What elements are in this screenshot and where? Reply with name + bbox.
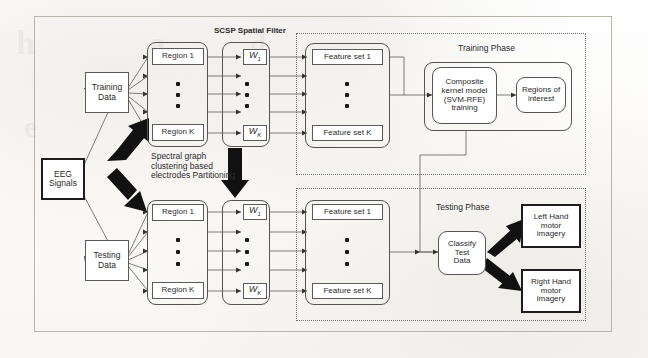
testing-region-first[interactable]: Region 1 [152,204,204,221]
testing-w-first-label: W [249,205,258,215]
partition-arrow-top [107,118,149,161]
ellipsis-dot [176,82,180,86]
training-feature-first[interactable]: Feature set 1 [312,49,383,65]
testing-w-last[interactable]: WK [243,283,267,299]
training-feature-last[interactable]: Feature set K [312,125,383,141]
testing-data-line2: Data [94,261,121,270]
training-w-first-label: W [249,50,258,60]
ellipsis-dot [345,250,349,254]
testing-feature-first[interactable]: Feature set 1 [312,204,383,220]
ellipsis-dot [245,82,249,86]
ellipsis-dot [345,262,349,266]
classify-test-data-box[interactable]: Classify Test Data [438,231,486,275]
scsp-filter-label: SCSP Spatial Filter [214,27,286,36]
classify-line3: Data [448,257,476,266]
right-hand-arrow [482,258,522,291]
training-w-last[interactable]: WK [243,125,267,141]
composite-kernel-line4: training [442,104,488,113]
testing-data-box[interactable]: Testing Data [85,240,129,281]
testing-region-last-label: Region K [162,286,195,295]
training-w-first[interactable]: W1 [243,49,267,65]
spectral-caption-line3: electrodes Partitioning [151,171,235,181]
ellipsis-dot [245,238,249,242]
ellipsis-dot [176,104,180,108]
training-feature-first-label: Feature set 1 [324,53,371,62]
left-hand-arrow [487,219,524,257]
testing-w-first-sub: 1 [258,211,261,217]
left-hand-line3: imagery [534,230,569,239]
training-region-last[interactable]: Region K [152,124,204,141]
training-data-box[interactable]: Training Data [85,72,129,113]
testing-phase-label: Testing Phase [436,203,489,213]
training-region-last-label: Region K [162,128,195,137]
training-region-first-label: Region 1 [162,52,194,61]
ellipsis-dot [176,262,180,266]
testing-feature-last[interactable]: Feature set K [312,283,383,299]
training-region-first[interactable]: Region 1 [152,48,204,65]
testing-w-last-sub: K [257,290,261,296]
testing-w-first[interactable]: W1 [243,204,267,220]
testing-w-last-label: W [249,284,258,294]
training-w-last-sub: K [257,132,261,138]
training-feature-last-label: Feature set K [323,129,371,138]
ellipsis-dot [245,250,249,254]
right-hand-line3: imagery [531,295,571,304]
testing-feature-first-label: Feature set 1 [324,208,371,217]
ellipsis-dot [176,93,180,97]
training-data-line2: Data [92,93,122,102]
training-w-first-sub: 1 [258,56,261,62]
ellipsis-dot [345,104,349,108]
right-hand-motor-imagery-box[interactable]: Right Hand motor imagery [521,269,581,313]
ellipsis-dot [176,238,180,242]
ellipsis-dot [245,104,249,108]
ellipsis-dot [176,250,180,254]
ellipsis-dot [345,238,349,242]
ellipsis-dot [245,262,249,266]
eeg-signals-box[interactable]: EEG Signals [41,158,85,200]
spectral-clustering-caption: Spectral graph clustering based electrod… [151,152,235,181]
training-w-last-label: W [249,126,258,136]
ellipsis-dot [345,82,349,86]
testing-region-last[interactable]: Region K [152,282,204,299]
testing-feature-last-label: Feature set K [323,287,371,296]
regions-of-interest-box[interactable]: Regions of interest [516,77,566,113]
left-hand-motor-imagery-box[interactable]: Left Hand motor imagery [521,204,581,248]
testing-region-first-label: Region 1 [162,208,194,217]
ellipsis-dot [345,93,349,97]
partition-arrow-bottom [107,168,147,212]
diagram-canvas: h a d e [0,0,648,358]
ellipsis-dot [245,93,249,97]
regions-of-interest-line2: interest [522,95,560,104]
eeg-signals-line2: Signals [49,179,77,188]
training-phase-label: Training Phase [458,44,515,54]
composite-kernel-box[interactable]: Composite kernel model (SVM-RFE) trainin… [432,67,497,124]
